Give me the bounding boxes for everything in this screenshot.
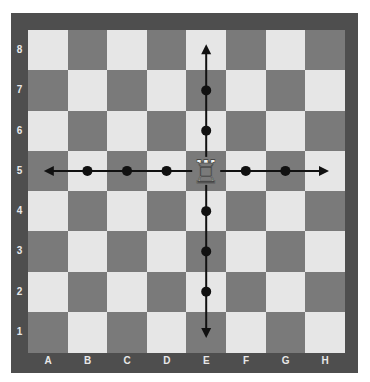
white-rook-icon[interactable]: ♖ xyxy=(192,153,221,191)
move-marker-e7 xyxy=(201,85,211,95)
move-marker-e2 xyxy=(201,287,211,297)
move-marker-d5 xyxy=(162,166,172,176)
move-overlay: ♖ xyxy=(0,0,370,382)
move-marker-c5 xyxy=(122,166,132,176)
arrow-to-e8-arrowhead xyxy=(201,44,211,54)
move-marker-g5 xyxy=(280,166,290,176)
move-marker-f5 xyxy=(241,166,251,176)
arrow-to-a5-arrowhead xyxy=(44,166,54,176)
arrow-to-h5-arrowhead xyxy=(319,166,329,176)
move-marker-e4 xyxy=(201,206,211,216)
move-marker-b5 xyxy=(82,166,92,176)
move-marker-e6 xyxy=(201,126,211,136)
arrow-to-e1-arrowhead xyxy=(201,328,211,338)
move-marker-e3 xyxy=(201,246,211,256)
